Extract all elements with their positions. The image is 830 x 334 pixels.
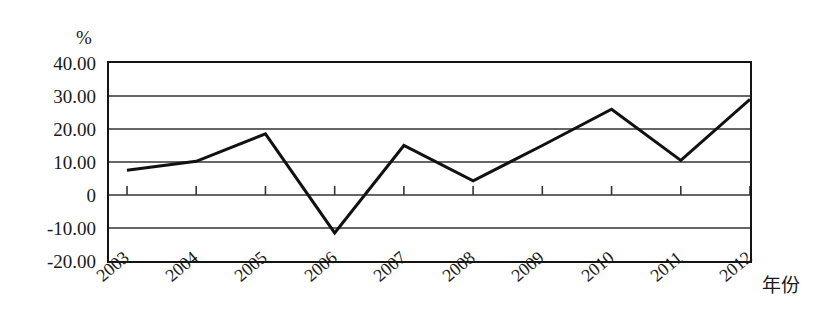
y-axis-tick-label: 30.00 [0,87,101,106]
y-axis-unit-label: % [76,28,92,47]
y-axis-tick-label: 20.00 [0,120,101,139]
x-axis-title: 年份 [762,276,800,295]
y-axis-tick-label: 0 [0,186,101,205]
x-axis-tick-marks [127,186,750,195]
series-polyline [127,99,750,233]
plot-svg [109,63,750,261]
y-axis-tick-label: -10.00 [0,219,101,238]
gridlines [109,96,750,228]
y-axis-tick-label: 10.00 [0,153,101,172]
y-axis-tick-label: -20.00 [0,252,101,271]
line-chart: % 40.0030.0020.0010.000-10.00-20.00 2003… [0,0,830,334]
data-line-series [127,99,750,233]
y-axis-labels: 40.0030.0020.0010.000-10.00-20.00 [0,55,101,263]
y-axis-tick-label: 40.00 [0,54,101,73]
plot-area [107,61,752,263]
